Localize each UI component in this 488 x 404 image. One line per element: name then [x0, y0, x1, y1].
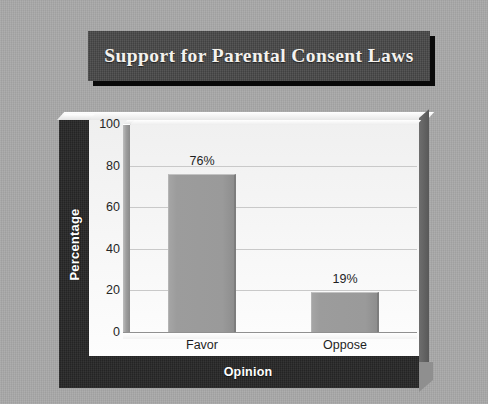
plot-area: 76%19%: [130, 124, 417, 332]
y-axis-title: Percentage: [59, 120, 89, 368]
chart-inner-panel: 020406080100 76%19% FavorOppose: [89, 120, 419, 356]
y-axis-tick-label: 0: [113, 325, 120, 339]
chart-corner-bevel: [419, 362, 433, 392]
bar: [168, 174, 236, 332]
x-axis-band: Opinion: [59, 356, 419, 388]
y-axis-spine: [123, 124, 130, 333]
plot-top-bevel: [130, 120, 421, 125]
y-axis-tick-label: 80: [106, 159, 120, 173]
y-axis-tick-label: 100: [99, 117, 120, 131]
x-axis-category-label: Favor: [186, 338, 218, 352]
bar: [311, 292, 379, 332]
page-title: Support for Parental Consent Laws: [104, 45, 413, 67]
y-axis-tick-label: 40: [106, 242, 120, 256]
bar-value-label: 19%: [332, 272, 357, 286]
y-axis-tick-labels: 020406080100: [89, 120, 123, 332]
gridline: [130, 166, 417, 167]
x-axis-category-labels: FavorOppose: [123, 338, 417, 356]
chart-right-shadow-face: [419, 109, 429, 384]
x-axis-category-label: Oppose: [323, 338, 367, 352]
x-axis-title-label: Opinion: [206, 365, 273, 379]
y-axis-title-label: Percentage: [67, 208, 82, 280]
bar-value-label: 76%: [189, 154, 214, 168]
slide-canvas: Support for Parental Consent Laws Percen…: [0, 0, 488, 404]
y-axis-tick-label: 60: [106, 200, 120, 214]
title-banner: Support for Parental Consent Laws: [88, 31, 430, 81]
bar-chart: Percentage 020406080100 76%19% FavorOppo…: [57, 112, 435, 392]
y-axis-tick-label: 20: [106, 283, 120, 297]
